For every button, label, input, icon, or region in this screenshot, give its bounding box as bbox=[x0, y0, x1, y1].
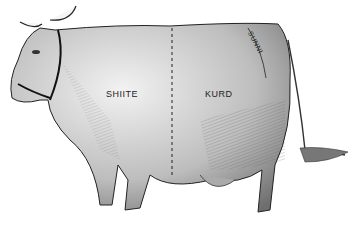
horn-right bbox=[50, 6, 76, 20]
tail bbox=[288, 40, 345, 155]
horn-left bbox=[20, 22, 42, 27]
cartoon-illustration: SHIITE KURD SUNNI bbox=[0, 0, 361, 226]
cow-drawing bbox=[0, 0, 361, 226]
region-label-kurd: KURD bbox=[205, 89, 233, 99]
region-label-shiite: SHIITE bbox=[106, 89, 138, 99]
